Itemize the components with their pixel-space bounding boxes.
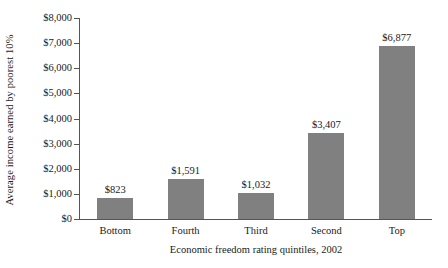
bar-value-label: $6,877 <box>382 32 411 43</box>
x-axis-tick-labels: BottomFourthThirdSecondTop <box>80 224 432 238</box>
y-axis-tick-mark <box>74 43 79 44</box>
bar <box>238 193 274 219</box>
y-axis-tick-label: $1,000 <box>20 189 72 199</box>
bar-group: $1,032 <box>221 18 291 219</box>
bar-chart: Average income earned by poorest 10% $0$… <box>0 0 448 268</box>
x-axis-tick-label: Fourth <box>172 224 200 237</box>
bar <box>97 198 133 219</box>
bar-value-label: $3,407 <box>312 119 341 130</box>
bar-group: $3,407 <box>291 18 361 219</box>
bar <box>168 179 204 219</box>
y-axis-title: Average income earned by poorest 10% <box>2 4 18 236</box>
y-axis-tick-label: $2,000 <box>20 164 72 174</box>
y-axis-tick-mark <box>74 194 79 195</box>
y-axis-tick-label: $7,000 <box>20 38 72 48</box>
y-axis-tick-label: $0 <box>20 214 72 224</box>
bar-group: $6,877 <box>362 18 432 219</box>
y-axis-tick-label: $3,000 <box>20 139 72 149</box>
bar <box>379 46 415 219</box>
plot-area: $823$1,591$1,032$3,407$6,877 <box>80 18 432 219</box>
x-axis-title: Economic freedom rating quintiles, 2002 <box>80 243 432 256</box>
x-axis-tick-label: Second <box>311 224 342 237</box>
y-axis-tick-label: $4,000 <box>20 114 72 124</box>
y-axis-tick-mark <box>74 68 79 69</box>
y-axis-tick-mark <box>74 169 79 170</box>
y-axis-tick-mark <box>74 144 79 145</box>
y-axis-tick-label: $6,000 <box>20 63 72 73</box>
x-axis-tick-label: Top <box>389 224 405 237</box>
bar <box>308 133 344 219</box>
bar-value-label: $823 <box>105 184 126 195</box>
y-axis-tick-label: $8,000 <box>20 13 72 23</box>
y-axis-tick-label: $5,000 <box>20 88 72 98</box>
y-axis-tick-labels: $0$1,000$2,000$3,000$4,000$5,000$6,000$7… <box>20 0 72 268</box>
y-axis-tick-mark <box>74 119 79 120</box>
x-axis-tick-label: Bottom <box>99 224 131 237</box>
y-axis-tick-mark <box>74 93 79 94</box>
bar-value-label: $1,032 <box>242 179 271 190</box>
bar-group: $823 <box>80 18 150 219</box>
bar-value-label: $1,591 <box>171 165 200 176</box>
y-axis-tick-mark <box>74 18 79 19</box>
bar-group: $1,591 <box>150 18 220 219</box>
y-axis-tick-mark <box>74 219 79 220</box>
x-axis-line <box>79 219 432 220</box>
x-axis-tick-label: Third <box>244 224 267 237</box>
